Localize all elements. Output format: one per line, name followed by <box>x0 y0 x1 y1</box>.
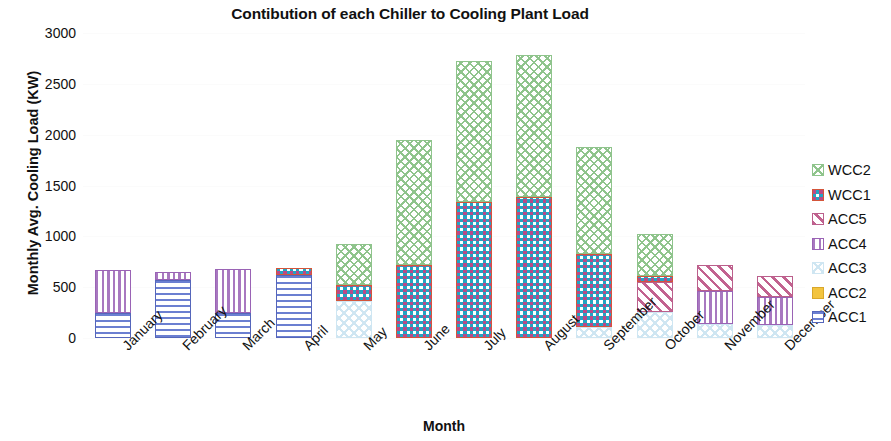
x-axis-tick-label: December <box>781 342 792 353</box>
bar-segment-acc5[interactable] <box>757 276 793 297</box>
chart-container: Contibution of each Chiller to Cooling P… <box>0 0 891 441</box>
legend-item-label: ACC1 <box>828 309 867 325</box>
bar-segment-wcc2[interactable] <box>456 61 492 201</box>
y-axis-tick-label: 2500 <box>45 76 76 92</box>
x-axis-tick-label: November <box>721 342 732 353</box>
y-axis-title: Monthly Avg. Cooling Load (KW) <box>25 33 41 333</box>
x-axis-tick-label: March <box>239 342 250 353</box>
y-axis-tick-label: 3000 <box>45 25 76 41</box>
x-axis-tick-label: July <box>480 342 491 353</box>
chart-legend: WCC2WCC1ACC5ACC4ACC3ACC2ACC1 <box>812 158 891 330</box>
legend-item-label: ACC4 <box>828 236 867 252</box>
x-axis-title: Month <box>83 418 805 434</box>
x-axis-tick-label: May <box>360 342 371 353</box>
bar-group[interactable] <box>215 33 251 338</box>
y-axis-tick-label: 1500 <box>45 178 76 194</box>
x-axis-tick-label: April <box>300 342 311 353</box>
legend-swatch-icon <box>812 311 824 323</box>
y-axis-tick-label: 500 <box>53 279 76 295</box>
bar-group[interactable] <box>336 33 372 338</box>
bar-group[interactable] <box>276 33 312 338</box>
legend-item-label: WCC2 <box>828 162 871 178</box>
legend-swatch-icon <box>812 238 824 250</box>
bar-segment-wcc1[interactable] <box>637 276 673 282</box>
plot-area: 050010001500200025003000 <box>83 33 805 338</box>
bar-segment-acc3[interactable] <box>336 301 372 338</box>
bar-segment-wcc1[interactable] <box>456 202 492 338</box>
bar-segment-wcc1[interactable] <box>516 197 552 338</box>
legend-item-label: ACC5 <box>828 211 867 227</box>
x-axis-tick-label: August <box>540 342 551 353</box>
bar-group[interactable] <box>637 33 673 338</box>
bar-segment-wcc2[interactable] <box>576 147 612 254</box>
legend-swatch-icon <box>812 213 824 225</box>
legend-item-acc3[interactable]: ACC3 <box>812 256 891 281</box>
x-axis-tick-label: June <box>420 342 431 353</box>
bar-segment-acc1[interactable] <box>276 275 312 338</box>
legend-swatch-icon <box>812 287 824 299</box>
bars-layer <box>83 33 805 338</box>
legend-swatch-icon <box>812 262 824 274</box>
x-axis-ticks: JanuaryFebruaryMarchAprilMayJuneJulyAugu… <box>83 338 805 408</box>
bar-segment-wcc1[interactable] <box>336 285 372 301</box>
bar-group[interactable] <box>757 33 793 338</box>
bar-segment-wcc1[interactable] <box>396 265 432 338</box>
bar-segment-acc5[interactable] <box>697 265 733 290</box>
legend-item-label: WCC1 <box>828 187 871 203</box>
legend-item-wcc1[interactable]: WCC1 <box>812 183 891 208</box>
legend-item-label: ACC2 <box>828 285 867 301</box>
bar-segment-acc4[interactable] <box>155 272 191 279</box>
legend-item-acc4[interactable]: ACC4 <box>812 232 891 257</box>
legend-swatch-icon <box>812 164 824 176</box>
legend-item-wcc2[interactable]: WCC2 <box>812 158 891 183</box>
bar-segment-acc4[interactable] <box>95 270 131 312</box>
bar-group[interactable] <box>95 33 131 338</box>
x-axis-tick-label: February <box>179 342 190 353</box>
bar-segment-wcc2[interactable] <box>336 244 372 285</box>
y-axis-tick-label: 1000 <box>45 228 76 244</box>
bar-segment-wcc1[interactable] <box>576 254 612 327</box>
legend-item-acc2[interactable]: ACC2 <box>812 281 891 306</box>
legend-item-acc5[interactable]: ACC5 <box>812 207 891 232</box>
legend-item-label: ACC3 <box>828 260 867 276</box>
y-axis-tick-label: 0 <box>68 330 76 346</box>
legend-swatch-icon <box>812 189 824 201</box>
bar-group[interactable] <box>396 33 432 338</box>
bar-group[interactable] <box>516 33 552 338</box>
y-axis-tick-label: 2000 <box>45 127 76 143</box>
bar-group[interactable] <box>155 33 191 338</box>
bar-group[interactable] <box>456 33 492 338</box>
bar-segment-wcc2[interactable] <box>396 140 432 266</box>
legend-item-acc1[interactable]: ACC1 <box>812 305 891 330</box>
bar-segment-acc1[interactable] <box>155 280 191 338</box>
x-axis-tick-label: October <box>661 342 672 353</box>
x-axis-tick-label: September <box>600 342 611 353</box>
bar-segment-wcc2[interactable] <box>637 234 673 276</box>
bar-segment-wcc2[interactable] <box>516 55 552 196</box>
bar-group[interactable] <box>576 33 612 338</box>
chart-title: Contibution of each Chiller to Cooling P… <box>0 5 820 23</box>
bar-segment-wcc1[interactable] <box>276 268 312 275</box>
x-axis-tick-label: January <box>119 342 130 353</box>
bar-group[interactable] <box>697 33 733 338</box>
